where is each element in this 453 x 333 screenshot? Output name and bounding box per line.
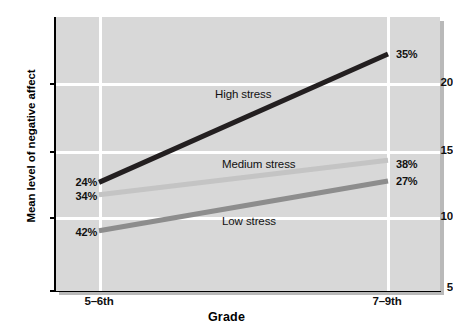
series-label-medium-stress: Medium stress <box>222 158 295 170</box>
point-label-low-left: 42% <box>53 226 97 238</box>
point-label-high-left: 24% <box>53 176 97 188</box>
point-label-high-right: 35% <box>396 48 417 60</box>
point-label-medium-right: 38% <box>396 158 417 170</box>
point-label-low-right: 27% <box>396 175 417 187</box>
series-label-high-stress: High stress <box>215 88 271 100</box>
series-label-low-stress: Low stress <box>222 215 276 227</box>
point-label-medium-left: 34% <box>53 190 97 202</box>
chart-figure: 20 15 10 5 5–6th 7–9th Mean level of neg… <box>0 0 453 333</box>
